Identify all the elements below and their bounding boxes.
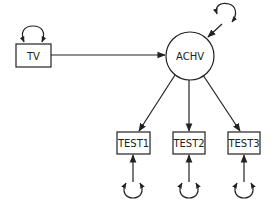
edge-achv-test1 [139, 75, 175, 131]
error2-variance-loop [180, 183, 198, 198]
tv-node: TV [16, 44, 51, 67]
error3-variance-loop [235, 183, 253, 198]
test3-node: TEST3 [227, 132, 260, 154]
tv-variance-loop [22, 26, 43, 42]
achv-node: ACHV [166, 32, 214, 80]
test2-label: TEST2 [172, 138, 204, 149]
test2-node: TEST2 [172, 132, 205, 154]
achv-disturbance-loop [216, 3, 235, 22]
edge-achv-test3 [203, 75, 240, 131]
tv-label: TV [26, 51, 40, 62]
path-diagram: TV ACHV TEST1 TEST2 TEST3 [0, 0, 277, 210]
edge-disturbance-achv [208, 24, 222, 37]
test3-label: TEST3 [227, 138, 259, 149]
achv-label: ACHV [176, 51, 204, 62]
test1-label: TEST1 [117, 138, 149, 149]
test1-node: TEST1 [117, 132, 150, 154]
error1-variance-loop [124, 183, 142, 198]
